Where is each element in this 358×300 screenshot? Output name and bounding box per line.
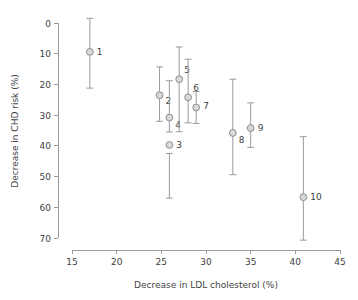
x-tick-label: 25 <box>156 257 167 267</box>
data-point: 8 <box>229 79 245 175</box>
data-point-marker <box>193 104 200 111</box>
x-tick-label: 45 <box>334 257 345 267</box>
data-point-label: 2 <box>166 96 172 106</box>
y-tick-label: 0 <box>45 19 51 29</box>
y-axis: 010203040506070 <box>40 19 58 244</box>
data-point-label: 7 <box>203 101 209 111</box>
scatter-chart: 010203040506070 15202530354045 123456789… <box>0 0 358 300</box>
data-point-label: 5 <box>184 65 190 75</box>
data-point-label: 1 <box>97 47 103 57</box>
data-point-marker <box>156 92 163 99</box>
data-point: 7 <box>193 91 209 123</box>
data-point-label: 9 <box>258 123 264 133</box>
data-point: 10 <box>300 137 322 241</box>
y-tick-label: 70 <box>40 234 52 244</box>
data-series: 12345678910 <box>86 18 322 240</box>
y-tick-label: 10 <box>40 49 52 59</box>
data-point: 9 <box>247 103 263 148</box>
data-point-marker <box>247 125 254 132</box>
y-tick-label: 60 <box>40 203 52 213</box>
x-tick-label: 40 <box>290 257 302 267</box>
data-point: 1 <box>86 18 102 88</box>
data-point-marker <box>166 142 173 149</box>
y-tick-label: 50 <box>40 172 52 182</box>
y-tick-label: 40 <box>40 141 52 151</box>
data-point-marker <box>185 94 192 101</box>
x-tick-label: 35 <box>245 257 256 267</box>
data-point-marker <box>166 114 173 121</box>
x-axis-title: Decrease in LDL cholesterol (%) <box>134 280 278 290</box>
y-axis-title: Decrease in CHD risk (%) <box>10 74 20 188</box>
data-point-marker <box>300 194 307 201</box>
chart-canvas: 010203040506070 15202530354045 123456789… <box>0 0 358 300</box>
x-axis: 15202530354045 <box>66 250 345 267</box>
y-tick-label: 20 <box>40 80 52 90</box>
data-point-label: 8 <box>239 135 245 145</box>
x-tick-label: 30 <box>200 257 212 267</box>
data-point-marker <box>176 76 183 83</box>
y-tick-label: 30 <box>40 111 52 121</box>
data-point-marker <box>86 48 93 55</box>
x-tick-label: 15 <box>66 257 77 267</box>
data-point-label: 3 <box>176 140 182 150</box>
data-point: 3 <box>166 140 182 198</box>
data-point-label: 10 <box>310 192 322 202</box>
x-tick-label: 20 <box>111 257 123 267</box>
data-point-label: 4 <box>175 120 181 130</box>
data-point-marker <box>229 130 236 137</box>
